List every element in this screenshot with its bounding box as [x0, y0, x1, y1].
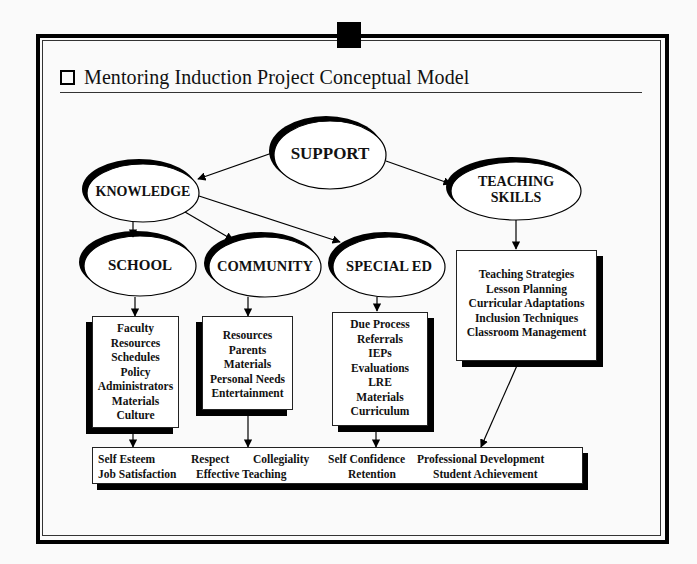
teaching-skills-node: TEACHING SKILLS: [451, 174, 581, 206]
knowledge-node: KNOWLEDGE: [86, 184, 200, 200]
outcome-retention: Retention: [348, 467, 396, 482]
list-item: Referrals: [333, 332, 427, 347]
school-list-box: Faculty Resources Schedules Policy Admin…: [92, 316, 179, 428]
list-item: Policy: [93, 365, 178, 380]
list-item: Resources: [203, 328, 292, 343]
teaching-skills-line-1: TEACHING: [451, 174, 581, 190]
teaching-skills-list-box: Teaching Strategies Lesson Planning Curr…: [456, 250, 597, 361]
list-item: LRE: [333, 375, 427, 390]
list-item: Due Process: [333, 317, 427, 332]
list-item: Faculty: [93, 321, 178, 336]
list-item: Parents: [203, 343, 292, 358]
outcome-respect: Respect: [191, 452, 229, 467]
school-node: SCHOOL: [84, 257, 196, 274]
outcome-professional-development: Professional Development: [417, 452, 544, 467]
outcome-self-esteem: Self Esteem: [98, 452, 155, 467]
outcomes-box: Self Esteem Respect Collegiality Self Co…: [92, 447, 583, 484]
teaching-skills-line-2: SKILLS: [451, 190, 581, 206]
special-ed-node: SPECIAL ED: [333, 258, 445, 275]
outcome-effective-teaching: Effective Teaching: [196, 467, 286, 482]
list-item: Materials: [203, 357, 292, 372]
list-item: Lesson Planning: [457, 282, 596, 297]
list-item: Materials: [333, 390, 427, 405]
outcome-job-satisfaction: Job Satisfaction: [98, 467, 176, 482]
list-item: Entertainment: [203, 386, 292, 401]
list-item: Culture: [93, 408, 178, 423]
list-item: Personal Needs: [203, 372, 292, 387]
list-item: Classroom Management: [457, 325, 596, 340]
outcome-student-achievement: Student Achievement: [433, 467, 537, 482]
list-item: Materials: [93, 394, 178, 409]
list-item: Evaluations: [333, 361, 427, 376]
outcome-collegiality: Collegiality: [253, 452, 309, 467]
list-item: Resources: [93, 336, 178, 351]
list-item: Curricular Adaptations: [457, 296, 596, 311]
list-item: IEPs: [333, 346, 427, 361]
list-item: Curriculum: [333, 404, 427, 419]
list-item: Inclusion Techniques: [457, 311, 596, 326]
support-node: SUPPORT: [274, 144, 386, 164]
list-item: Schedules: [93, 350, 178, 365]
special-ed-list-box: Due Process Referrals IEPs Evaluations L…: [332, 312, 428, 426]
community-list-box: Resources Parents Materials Personal Nee…: [202, 316, 293, 410]
list-item: Administrators: [93, 379, 178, 394]
community-node: COMMUNITY: [209, 258, 321, 275]
list-item: Teaching Strategies: [457, 267, 596, 282]
outcome-self-confidence: Self Confidence: [328, 452, 405, 467]
